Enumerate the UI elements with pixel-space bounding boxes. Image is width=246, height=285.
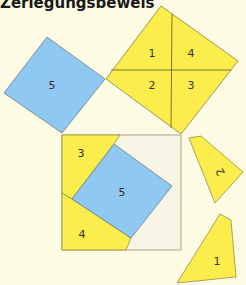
piece-label-3-frame: 3 <box>78 147 85 160</box>
piece-label-3: 3 <box>188 79 195 92</box>
piece-label-1: 1 <box>149 47 156 60</box>
piece-label-4: 4 <box>188 47 195 60</box>
piece-label-4-frame: 4 <box>79 228 86 241</box>
loose-piece-1 <box>177 214 236 283</box>
pythagoras-dissection-diagram: 1 4 2 3 5 3 5 4 2 1 <box>0 0 246 285</box>
piece-label-5: 5 <box>49 79 56 92</box>
hypotenuse-square <box>106 6 238 134</box>
loose-piece-2 <box>189 136 243 203</box>
piece-label-5-frame: 5 <box>119 186 126 199</box>
piece-label-1-loose: 1 <box>214 255 221 268</box>
piece-label-2: 2 <box>149 79 156 92</box>
